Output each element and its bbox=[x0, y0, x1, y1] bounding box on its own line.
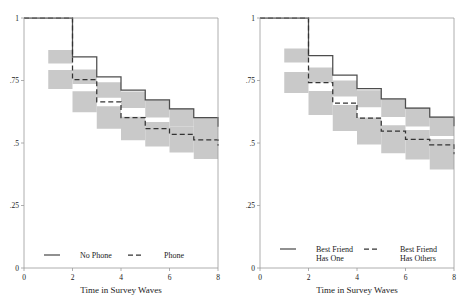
x-tick-label: 2 bbox=[307, 273, 311, 282]
confidence-bands bbox=[284, 49, 454, 170]
ci-band-segment bbox=[406, 108, 430, 127]
ci-band-segment bbox=[97, 106, 121, 129]
ci-band-segment bbox=[309, 68, 333, 83]
ci-band-segment bbox=[430, 139, 454, 170]
ci-band-segment bbox=[97, 82, 121, 98]
x-tick-label: 2 bbox=[71, 273, 75, 282]
y-axis: 0.25.5.751 bbox=[10, 14, 24, 273]
ci-band-segment bbox=[333, 81, 357, 97]
legend: Best FriendHas OneBest FriendHas Others bbox=[280, 245, 437, 263]
ci-band-segment bbox=[284, 72, 308, 93]
y-tick-label: 0 bbox=[15, 264, 19, 273]
x-tick-label: 6 bbox=[168, 273, 172, 282]
legend: No PhonePhone bbox=[44, 251, 184, 260]
x-axis-title: Time in Survey Waves bbox=[80, 285, 162, 295]
x-tick-label: 8 bbox=[452, 273, 456, 282]
x-tick-label: 4 bbox=[119, 273, 123, 282]
ci-band-segment bbox=[284, 49, 308, 63]
survival-curves-figure: 0.25.5.75102468Time in Survey WavesNo Ph… bbox=[0, 0, 472, 305]
x-axis-title: Time in Survey Waves bbox=[316, 285, 398, 295]
ci-band-segment bbox=[406, 130, 430, 160]
ci-band-segment bbox=[145, 100, 169, 118]
ci-band-segment bbox=[170, 127, 194, 153]
ci-band-segment bbox=[48, 50, 72, 64]
y-tick-label: .25 bbox=[10, 201, 20, 210]
ci-band-segment bbox=[170, 108, 194, 127]
ci-band-segment bbox=[357, 118, 381, 145]
ci-band-segment bbox=[357, 90, 381, 107]
plot-right: 0.25.5.75102468Time in Survey WavesBest … bbox=[236, 0, 472, 305]
ci-band-segment bbox=[121, 92, 145, 109]
y-axis: 0.25.5.751 bbox=[246, 14, 260, 273]
panel-right: 0.25.5.75102468Time in Survey WavesBest … bbox=[236, 0, 472, 305]
ci-band-segment bbox=[73, 91, 97, 112]
legend-no-phone[interactable]: No Phone bbox=[80, 251, 112, 260]
x-tick-label: 0 bbox=[22, 273, 26, 282]
x-axis: 02468 bbox=[258, 268, 456, 282]
x-tick-label: 0 bbox=[258, 273, 262, 282]
confidence-bands bbox=[48, 50, 218, 159]
ci-band-segment bbox=[381, 99, 405, 117]
y-tick-label: .75 bbox=[246, 76, 256, 85]
x-tick-label: 6 bbox=[404, 273, 408, 282]
y-tick-label: .5 bbox=[249, 139, 255, 148]
legend-phone[interactable]: Phone bbox=[164, 251, 184, 260]
ci-band-segment bbox=[309, 91, 333, 115]
y-tick-label: .75 bbox=[10, 76, 20, 85]
legend-best-friend-has-one[interactable]: Best FriendHas One bbox=[316, 245, 353, 263]
y-tick-label: 1 bbox=[15, 14, 19, 23]
plot-left: 0.25.5.75102468Time in Survey WavesNo Ph… bbox=[0, 0, 236, 305]
ci-band-segment bbox=[73, 70, 97, 85]
ci-band-segment bbox=[430, 117, 454, 137]
x-tick-label: 4 bbox=[355, 273, 359, 282]
ci-band-segment bbox=[121, 117, 145, 141]
y-tick-label: 1 bbox=[251, 14, 255, 23]
y-tick-label: .5 bbox=[13, 139, 19, 148]
ci-band-segment bbox=[333, 105, 357, 131]
y-tick-label: 0 bbox=[251, 264, 255, 273]
ci-band-segment bbox=[48, 70, 72, 89]
legend-best-friend-has-others[interactable]: Best FriendHas Others bbox=[400, 245, 437, 263]
y-tick-label: .25 bbox=[246, 201, 256, 210]
ci-band-segment bbox=[145, 122, 169, 147]
ci-band-segment bbox=[381, 125, 405, 153]
ci-band-segment bbox=[194, 133, 218, 160]
x-axis: 02468 bbox=[22, 268, 220, 282]
x-tick-label: 8 bbox=[216, 273, 220, 282]
panel-left: 0.25.5.75102468Time in Survey WavesNo Ph… bbox=[0, 0, 236, 305]
